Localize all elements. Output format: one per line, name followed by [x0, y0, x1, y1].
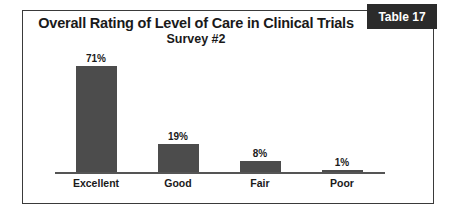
x-tick-label-1: Good: [137, 177, 219, 189]
bar-value-3: 1%: [301, 157, 383, 168]
chart-title: Overall Rating of Level of Care in Clini…: [26, 15, 366, 31]
bar-group-0: 71%: [55, 52, 137, 173]
x-tick-label-3: Poor: [301, 177, 383, 189]
bar-0: [76, 66, 117, 173]
x-tick-label-0: Excellent: [55, 177, 137, 189]
bar-group-2: 8%: [219, 52, 301, 173]
x-axis-line: [55, 172, 385, 174]
bar-value-1: 19%: [137, 131, 219, 142]
x-tick-label-2: Fair: [219, 177, 301, 189]
bar-1: [158, 144, 199, 173]
x-axis-tick-labels: Excellent Good Fair Poor: [55, 177, 385, 195]
bar-group-3: 1%: [301, 52, 383, 173]
plot-area: 71% 19% 8% 1%: [55, 52, 385, 173]
table-number-badge: Table 17: [367, 4, 437, 29]
bar-value-0: 71%: [55, 53, 137, 64]
bar-group-1: 19%: [137, 52, 219, 173]
chart-figure: Overall Rating of Level of Care in Clini…: [0, 0, 458, 222]
bar-value-2: 8%: [219, 148, 301, 159]
chart-subtitle: Survey #2: [26, 32, 366, 46]
